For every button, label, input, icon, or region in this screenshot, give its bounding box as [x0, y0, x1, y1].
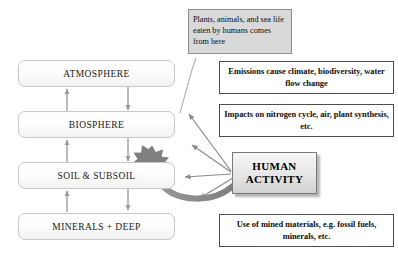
sphere-box-minerals-deep[interactable]: MINERALS + DEEP	[18, 213, 175, 240]
note-impacts: Impacts on nitrogen cycle, air, plant sy…	[219, 104, 394, 137]
arrow-human-to-biosphere	[192, 145, 231, 172]
note-food-source: Plants, animals, and sea life eaten by h…	[188, 9, 292, 54]
diagram-canvas: ATMOSPHERE BIOSPHERE SOIL & SUBSOIL MINE…	[0, 0, 398, 261]
sphere-label-soil: SOIL & SUBSOIL	[57, 171, 135, 181]
note-mined-materials: Use of mined materials, e.g. fossil fuel…	[219, 214, 394, 247]
sphere-box-biosphere[interactable]: BIOSPHERE	[18, 111, 175, 138]
sphere-box-atmosphere[interactable]: ATMOSPHERE	[18, 60, 175, 87]
sphere-label-minerals: MINERALS + DEEP	[52, 222, 140, 232]
connector-food-source-to-biosphere	[180, 58, 196, 113]
sphere-label-biosphere: BIOSPHERE	[69, 120, 124, 130]
note-food-source-text: Plants, animals, and sea life eaten by h…	[193, 15, 287, 47]
human-activity-line2: ACTIVITY	[246, 173, 303, 186]
note-mined-materials-text: Use of mined materials, e.g. fossil fuel…	[223, 219, 390, 242]
sphere-box-soil-and-subsoil[interactable]: SOIL & SUBSOIL	[18, 162, 175, 189]
note-emissions-text: Emissions cause climate, biodiversity, w…	[223, 66, 390, 89]
human-activity-line1: HUMAN	[246, 160, 303, 173]
sphere-label-atmosphere: ATMOSPHERE	[63, 69, 129, 79]
note-emissions: Emissions cause climate, biodiversity, w…	[219, 61, 394, 94]
note-impacts-text: Impacts on nitrogen cycle, air, plant sy…	[223, 109, 390, 132]
arrow-human-to-soil	[185, 174, 231, 177]
human-activity-box[interactable]: HUMAN ACTIVITY	[232, 152, 317, 194]
